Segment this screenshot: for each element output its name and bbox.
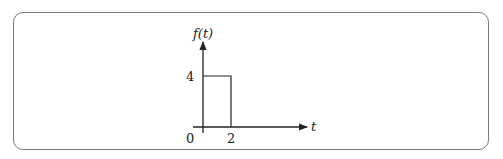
- origin-label: 0: [186, 131, 194, 146]
- y-tick-label: 4: [186, 69, 194, 84]
- x-axis-label: t: [311, 119, 317, 134]
- y-axis-label: f(t): [192, 26, 213, 41]
- x-tick-label: 2: [227, 131, 235, 146]
- pulse-diagram: f(t) t 4 0 2: [0, 0, 503, 159]
- pulse-rectangle: [203, 76, 231, 127]
